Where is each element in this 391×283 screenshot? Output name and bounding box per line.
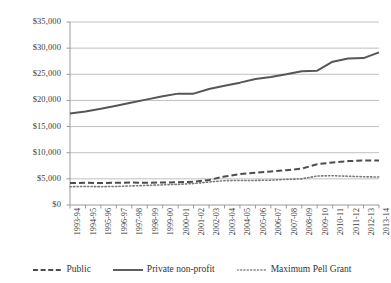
- dotted-line-icon: [237, 265, 267, 275]
- x-tick-label: 2003-04: [228, 208, 237, 235]
- x-tick-label: 2002-03: [212, 208, 221, 235]
- legend-item-public: Public: [33, 264, 91, 275]
- x-tick-label: 2012-13: [367, 208, 376, 235]
- x-tick-label: 2005-06: [259, 208, 268, 235]
- x-tick-label: 2007-08: [290, 208, 299, 235]
- x-tick-label: 2009-10: [321, 208, 330, 235]
- x-tick-label: 2013-14: [382, 208, 391, 235]
- legend-label-private-non-profit: Private non-profit: [147, 264, 215, 275]
- dashed-line-icon: [33, 265, 63, 275]
- x-tick-label: 1999-00: [166, 208, 175, 235]
- x-tick-label: 2008-09: [305, 208, 314, 235]
- x-tick-label: 2004-05: [243, 208, 252, 235]
- x-tick-label: 1998-99: [151, 208, 160, 235]
- legend-item-private-non-profit: Private non-profit: [113, 264, 215, 275]
- x-tick-label: 2010-11: [336, 208, 345, 235]
- x-tick-label: 1997-98: [135, 208, 144, 235]
- x-tick-label: 1993-94: [73, 208, 82, 235]
- x-tick-label: 2001-02: [197, 208, 206, 235]
- plot-area: $0$5,000$10,000$15,000$20,000$25,000$30,…: [0, 0, 384, 255]
- x-tick-label: 2000-01: [182, 208, 191, 235]
- x-axis-tick-labels: 1993-941994-951995-961996-971997-981998-…: [0, 0, 384, 255]
- legend-label-public: Public: [67, 264, 91, 275]
- legend-label-maximum-pell-grant: Maximum Pell Grant: [271, 264, 352, 275]
- x-tick-label: 1996-97: [120, 208, 129, 235]
- chart-legend: Public Private non-profit Maximum Pell G…: [0, 256, 384, 283]
- x-tick-label: 1995-96: [104, 208, 113, 235]
- solid-line-icon: [113, 265, 143, 275]
- x-tick-label: 2011-12: [352, 208, 361, 235]
- x-tick-label: 2006-07: [274, 208, 283, 235]
- x-tick-label: 1994-95: [89, 208, 98, 235]
- legend-item-maximum-pell-grant: Maximum Pell Grant: [237, 264, 352, 275]
